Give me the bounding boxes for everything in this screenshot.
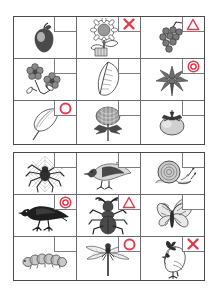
answer-box-stag-beetle[interactable] xyxy=(118,195,141,210)
x-mark-icon xyxy=(186,237,200,251)
picture-cell-sunflower[interactable] xyxy=(77,17,140,59)
answer-box-persimmon[interactable] xyxy=(182,101,204,116)
picture-cell-grapes[interactable] xyxy=(141,17,204,59)
plants-grid xyxy=(13,16,205,145)
answer-box-crow[interactable] xyxy=(54,195,77,210)
picture-cell-apple[interactable] xyxy=(14,17,77,59)
picture-cell-maple-leaf[interactable] xyxy=(141,59,204,101)
picture-cell-chicken[interactable] xyxy=(141,237,204,280)
animals-grid xyxy=(13,152,205,281)
x-mark-icon xyxy=(122,17,136,31)
triangle-mark-icon xyxy=(186,18,200,31)
picture-cell-leaf[interactable] xyxy=(77,59,140,101)
answer-box-pigeon[interactable] xyxy=(118,153,141,168)
picture-cell-dragonfly[interactable] xyxy=(77,237,140,280)
double-circle-mark-icon xyxy=(59,196,72,209)
answer-box-caterpillar[interactable] xyxy=(54,237,77,252)
answer-box-ginkgo-leaf[interactable] xyxy=(54,101,77,116)
answer-box-sunflower[interactable] xyxy=(118,17,141,32)
picture-cell-caterpillar[interactable] xyxy=(14,237,77,280)
picture-cell-flower-cluster[interactable] xyxy=(14,59,77,101)
triangle-mark-icon xyxy=(122,196,136,209)
answer-box-maple-leaf[interactable] xyxy=(182,59,204,74)
answer-box-snail[interactable] xyxy=(182,153,204,168)
picture-cell-persimmon[interactable] xyxy=(141,101,204,144)
picture-cell-stag-beetle[interactable] xyxy=(77,195,140,237)
answer-box-butterfly[interactable] xyxy=(182,195,204,210)
picture-cell-butterfly[interactable] xyxy=(141,195,204,237)
answer-box-grapes[interactable] xyxy=(182,17,204,32)
picture-cell-ginkgo-leaf[interactable] xyxy=(14,101,77,144)
answer-box-apple[interactable] xyxy=(54,17,77,32)
picture-cell-chrysanthemum[interactable] xyxy=(77,101,140,144)
answer-box-chicken[interactable] xyxy=(182,237,204,252)
answer-box-leaf[interactable] xyxy=(118,59,141,74)
picture-cell-snail[interactable] xyxy=(141,153,204,195)
double-circle-mark-icon xyxy=(187,60,200,73)
answer-box-spider-web[interactable] xyxy=(54,153,77,168)
picture-cell-spider-web[interactable] xyxy=(14,153,77,195)
answer-box-chrysanthemum[interactable] xyxy=(118,101,141,116)
circle-mark-icon xyxy=(123,238,136,251)
picture-cell-pigeon[interactable] xyxy=(77,153,140,195)
circle-mark-icon xyxy=(59,102,72,115)
answer-box-dragonfly[interactable] xyxy=(118,237,141,252)
picture-cell-crow[interactable] xyxy=(14,195,77,237)
answer-box-flower-cluster[interactable] xyxy=(54,59,77,74)
worksheet xyxy=(13,16,205,281)
